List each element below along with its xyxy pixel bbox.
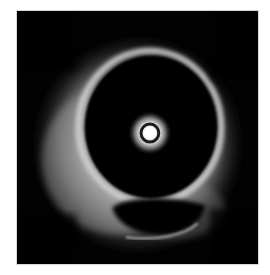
ultrasound-image xyxy=(16,10,259,265)
catheter xyxy=(128,111,172,155)
ivus-cross-section xyxy=(17,11,258,264)
